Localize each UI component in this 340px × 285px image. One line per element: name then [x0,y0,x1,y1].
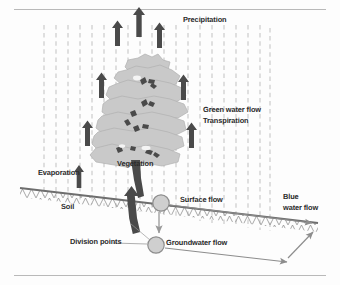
transpiration-arrow-mid-left [96,73,107,99]
water-cycle-figure: Precipitation Green water flow Transpira… [0,0,340,285]
label-vegetation: Vegetation [117,159,153,168]
label-evaporation: Evaporation [38,168,80,177]
label-blue-water-flow-line1: Blue [283,192,299,201]
label-soil: Soil [61,202,74,211]
vegetation-canopy [90,54,188,167]
label-transpiration: Transpiration [203,116,249,125]
label-division-points: Division points [70,237,121,246]
transpiration-arrow-top-right [154,23,165,49]
division-point-lower [148,237,164,253]
blue-water-flow-arrow [288,232,313,258]
transpiration-arrow-top-center [133,7,145,37]
transpiration-arrow-lower-left [82,121,93,147]
transpiration-arrow-top-left [112,21,123,47]
label-precipitation: Precipitation [183,15,226,24]
groundwater-flow-arrow [165,248,287,262]
label-blue-water-flow-line2: water flow [283,203,318,212]
label-green-water-flow: Green water flow [203,105,261,114]
label-groundwater-flow: Groundwater flow [166,238,227,247]
division-point-upper [153,195,169,211]
label-surface-flow: Surface flow [180,195,223,204]
